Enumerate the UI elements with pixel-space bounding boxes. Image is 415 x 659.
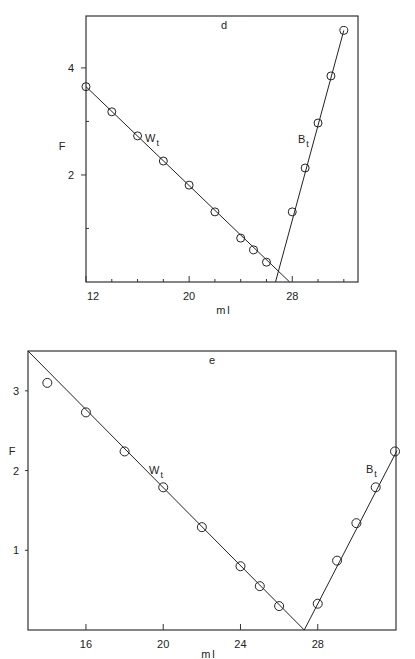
plot-frame (28, 351, 396, 630)
chart-panel-d: d12202824mlFWtBt (59, 16, 358, 316)
fit-line (304, 451, 397, 630)
y-tick-label: 4 (68, 62, 74, 74)
data-point (301, 164, 309, 172)
data-point (211, 208, 219, 216)
fit-line (275, 30, 343, 282)
chart-panel-e: e16202428123mlFWtBt (9, 351, 400, 659)
series-wt: Wt (82, 83, 290, 282)
figure: d12202824mlFWtBt e16202428123mlFWtBt (0, 0, 415, 659)
plot-frame (86, 16, 358, 282)
y-tick-label: 1 (13, 544, 19, 556)
y-tick-label: 2 (68, 169, 74, 181)
x-tick-label: 16 (80, 638, 92, 650)
series-label: Wt (149, 464, 163, 480)
panel-title: d (221, 19, 227, 31)
x-tick-label: 20 (183, 290, 195, 302)
data-point (275, 602, 284, 611)
series-label: Bt (366, 463, 377, 479)
series-bt: Bt (304, 447, 399, 630)
y-axis-label: F (59, 140, 66, 152)
data-point (371, 483, 380, 492)
x-tick-label: 28 (286, 290, 298, 302)
x-axis-label: ml (216, 304, 232, 316)
series-wt: Wt (28, 351, 304, 630)
data-point (43, 378, 52, 387)
x-tick-label: 12 (87, 290, 99, 302)
series-label: Bt (298, 133, 309, 149)
fit-line (86, 87, 290, 282)
data-point (255, 582, 264, 591)
y-tick-label: 3 (13, 385, 19, 397)
panel-title: e (209, 354, 215, 366)
x-tick-label: 20 (157, 638, 169, 650)
y-tick-label: 2 (13, 465, 19, 477)
x-tick-label: 24 (234, 638, 246, 650)
x-tick-label: 28 (312, 638, 324, 650)
x-axis-label: ml (201, 648, 217, 659)
y-axis-label: F (9, 445, 16, 457)
series-bt: Bt (275, 26, 347, 282)
